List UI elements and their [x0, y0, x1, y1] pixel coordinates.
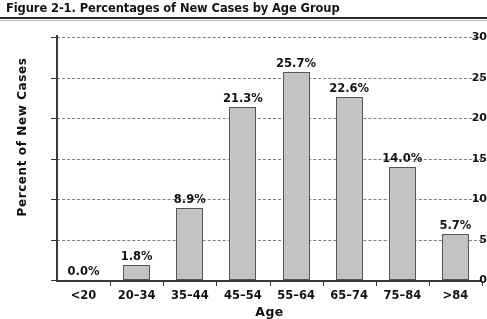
bar-value-label: 22.6%	[323, 81, 375, 95]
y-axis-tick	[51, 199, 57, 200]
x-axis-tick-label: 45–54	[217, 288, 269, 302]
x-axis-tick	[110, 281, 111, 286]
y-axis-title: Percent of New Cases	[15, 27, 29, 247]
gridline	[57, 199, 482, 200]
x-axis-tick-label: 65–74	[323, 288, 375, 302]
bar	[176, 208, 203, 280]
x-axis-tick	[216, 281, 217, 286]
y-axis-tick	[51, 240, 57, 241]
x-axis-tick-label: <20	[58, 288, 110, 302]
y-axis-tick	[51, 78, 57, 79]
x-axis-tick	[323, 281, 324, 286]
bar	[229, 107, 256, 280]
x-axis-tick	[376, 281, 377, 286]
bar-value-label: 5.7%	[429, 218, 481, 232]
figure-title: Figure 2-1. Percentages of New Cases by …	[6, 1, 340, 15]
bar	[336, 97, 363, 280]
bar-value-label: 0.0%	[58, 264, 110, 278]
gridline	[57, 240, 482, 241]
gridline	[57, 118, 482, 119]
x-axis-tick	[482, 281, 483, 286]
y-axis-tick-label: 20	[441, 111, 487, 124]
x-axis-title: Age	[57, 304, 482, 319]
y-axis-tick-label: 10	[441, 192, 487, 205]
x-axis-tick-label: >84	[429, 288, 481, 302]
bar	[123, 265, 150, 280]
x-axis-tick	[163, 281, 164, 286]
x-axis-tick-label: 75–84	[376, 288, 428, 302]
figure-title-band: Figure 2-1. Percentages of New Cases by …	[0, 0, 487, 20]
x-axis-tick-label: 35–44	[164, 288, 216, 302]
bar-value-label: 14.0%	[376, 151, 428, 165]
y-axis-tick-label: 30	[441, 30, 487, 43]
bar-value-label: 25.7%	[270, 56, 322, 70]
y-axis-tick	[51, 280, 57, 281]
x-axis-tick	[270, 281, 271, 286]
bar	[442, 234, 469, 280]
x-axis-tick-label: 20–34	[111, 288, 163, 302]
gridline	[57, 37, 482, 38]
y-axis-tick-label: 15	[441, 152, 487, 165]
bar-value-label: 1.8%	[111, 249, 163, 263]
x-axis-tick	[429, 281, 430, 286]
y-axis-tick	[51, 118, 57, 119]
gridline	[57, 78, 482, 79]
y-axis-tick	[51, 37, 57, 38]
bar	[283, 72, 310, 280]
bar-value-label: 8.9%	[164, 192, 216, 206]
y-axis-tick	[51, 159, 57, 160]
bar-value-label: 21.3%	[217, 91, 269, 105]
bar	[389, 167, 416, 280]
x-axis-tick-label: 55–64	[270, 288, 322, 302]
y-axis-tick-label: 25	[441, 71, 487, 84]
bar-chart: Percent of New Cases Age 0510152025300.0…	[0, 20, 487, 319]
